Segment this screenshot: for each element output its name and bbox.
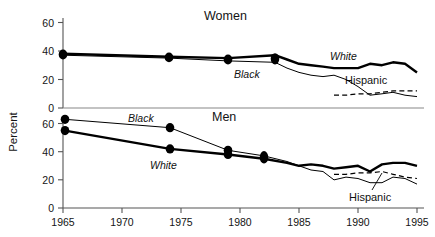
xtick-1975: 1975 — [169, 216, 193, 228]
men-ytick-20: 20 — [42, 174, 54, 186]
panel-men: 60 40 20 0 1965 1970 1975 1980 1985 — [42, 115, 429, 228]
xtick-1970: 1970 — [110, 216, 134, 228]
men-ytick-60: 60 — [42, 118, 54, 130]
men-x-ticks — [63, 208, 417, 213]
xtick-1985: 1985 — [287, 216, 311, 228]
men-y-ticklabels: 60 40 20 0 — [42, 118, 54, 215]
women-ytick-20: 20 — [42, 74, 54, 86]
women-series-black — [63, 55, 417, 96]
men-series-black — [65, 119, 417, 184]
xtick-1990: 1990 — [346, 216, 370, 228]
panel-women: 60 40 20 0 — [42, 17, 424, 115]
women-ytick-0: 0 — [48, 102, 54, 114]
men-series-white — [65, 131, 417, 172]
x-ticklabels: 1965 1970 1975 1980 1985 1990 1995 — [51, 216, 429, 228]
men-hispanic-leader-line — [372, 173, 382, 190]
men-ytick-40: 40 — [42, 146, 54, 158]
women-y-ticklabels: 60 40 20 0 — [42, 17, 54, 115]
men-ytick-0: 0 — [48, 202, 54, 214]
women-ytick-40: 40 — [42, 45, 54, 57]
xtick-1965: 1965 — [51, 216, 75, 228]
women-ytick-60: 60 — [42, 17, 54, 29]
women-y-ticks — [58, 23, 63, 109]
xtick-1995: 1995 — [405, 216, 429, 228]
xtick-1980: 1980 — [228, 216, 252, 228]
chart-canvas: 60 40 20 0 — [0, 0, 435, 237]
men-y-ticks — [58, 124, 63, 209]
figure-root: Percent Women Men White Black Hispanic B… — [0, 0, 435, 237]
